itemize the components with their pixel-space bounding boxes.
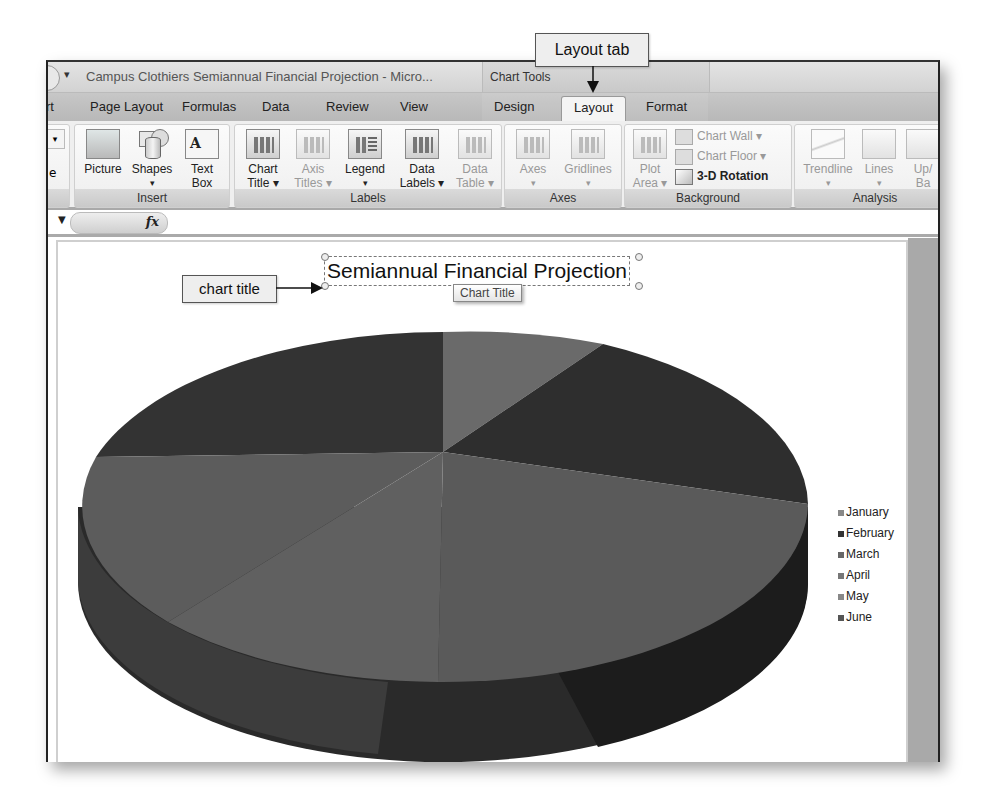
text-box-button[interactable]: A Text Box: [180, 129, 224, 190]
gridlines-button[interactable]: Gridlines ▾: [559, 129, 617, 190]
trendline-button[interactable]: Trendline ▾: [799, 129, 857, 190]
chart-title-button[interactable]: Chart Title ▾: [241, 129, 285, 190]
legend-item: March: [838, 544, 894, 565]
legend-item: April: [838, 565, 894, 586]
shapes-icon: [135, 129, 169, 159]
data-table-icon: [458, 129, 492, 159]
tab-view[interactable]: View: [400, 99, 428, 114]
background-group: Plot Area ▾ Chart Wall ▾ Chart Floor ▾ 3…: [624, 124, 792, 208]
ribbon: ▾ e Picture Shapes ▾ A Text: [48, 121, 938, 210]
tab-page-layout[interactable]: Page Layout: [90, 99, 163, 114]
insert-function-button[interactable]: fx: [70, 212, 168, 234]
analysis-group-label: Analysis: [795, 189, 940, 207]
legend-item: May: [838, 586, 894, 607]
legend-button[interactable]: Legend ▾: [339, 129, 391, 190]
legend-item: February: [838, 523, 894, 544]
pie-slice-june[interactable]: [96, 332, 443, 457]
legend-item: June: [838, 607, 894, 628]
chart-floor-button[interactable]: Chart Floor ▾: [675, 149, 766, 165]
formula-bar: ▼ fx: [48, 210, 938, 237]
tab-insert[interactable]: rt: [46, 99, 54, 114]
picture-button[interactable]: Picture: [80, 129, 126, 176]
quick-access-dropdown-icon[interactable]: ▾: [64, 68, 70, 81]
lines-button[interactable]: Lines ▾: [859, 129, 899, 190]
chart-floor-icon: [675, 149, 693, 165]
analysis-group: Trendline ▾ Lines ▾ Up/ Ba Analysis: [794, 124, 940, 208]
legend-swatch-icon: [838, 531, 844, 537]
lines-icon: [862, 129, 896, 159]
group-label: [46, 189, 69, 207]
tab-review[interactable]: Review: [326, 99, 369, 114]
layout-tab-callout: Layout tab: [535, 33, 649, 67]
legend-swatch-icon: [838, 573, 844, 579]
excel-window-screenshot: ▾ Campus Clothiers Semiannual Financial …: [46, 60, 940, 762]
fx-icon: fx: [146, 214, 159, 229]
trendline-icon: [811, 129, 845, 159]
insert-group-label: Insert: [75, 189, 229, 207]
name-box-dropdown-icon[interactable]: ▼: [58, 214, 66, 225]
tab-design[interactable]: Design: [494, 99, 534, 114]
up-down-bars-button[interactable]: Up/ Ba: [903, 129, 940, 190]
text-box-icon: A: [185, 129, 219, 159]
axes-icon: [516, 129, 550, 159]
legend-swatch-icon: [838, 615, 844, 621]
labels-group-label: Labels: [235, 189, 501, 207]
worksheet-background-strip: [908, 238, 938, 762]
3d-rotation-button[interactable]: 3-D Rotation: [675, 169, 768, 185]
axis-titles-icon: [296, 129, 330, 159]
chart-tools-label: Chart Tools: [490, 70, 550, 84]
chart-title-icon: [246, 129, 280, 159]
ribbon-tabs: rt Page Layout Formulas Data Review View…: [48, 93, 938, 121]
partial-label: e: [49, 166, 56, 180]
data-labels-button[interactable]: Data Labels ▾: [395, 129, 449, 190]
tab-format[interactable]: Format: [646, 99, 687, 114]
legend-swatch-icon: [838, 510, 844, 516]
legend-icon: [348, 129, 382, 159]
legend-swatch-icon: [838, 552, 844, 558]
partial-group: ▾ e: [46, 124, 70, 208]
shapes-button[interactable]: Shapes ▾: [128, 129, 176, 190]
3d-cube-icon: [675, 169, 693, 185]
legend-item: January: [838, 502, 894, 523]
window-title: Campus Clothiers Semiannual Financial Pr…: [86, 69, 433, 84]
plot-area-icon: [633, 129, 667, 159]
tab-formulas[interactable]: Formulas: [182, 99, 236, 114]
legend-swatch-icon: [838, 594, 844, 600]
plot-area-button[interactable]: Plot Area ▾: [629, 129, 671, 190]
chart-wall-icon: [675, 129, 693, 145]
chart-legend[interactable]: January February March April May June: [838, 502, 894, 628]
data-table-button[interactable]: Data Table ▾: [451, 129, 499, 190]
background-group-label: Background: [625, 189, 791, 207]
axes-group-label: Axes: [505, 189, 621, 207]
office-button[interactable]: [46, 65, 60, 91]
pie-chart[interactable]: [58, 242, 906, 762]
title-bar: ▾ Campus Clothiers Semiannual Financial …: [48, 62, 938, 93]
formula-input[interactable]: [172, 212, 938, 232]
axis-titles-button[interactable]: Axis Titles ▾: [289, 129, 337, 190]
chart-area[interactable]: Semiannual Financial Projection Chart Ti…: [56, 240, 908, 762]
data-labels-icon: [405, 129, 439, 159]
axes-button[interactable]: Axes ▾: [509, 129, 557, 190]
axes-group: Axes ▾ Gridlines ▾ Axes: [504, 124, 622, 208]
chart-title-callout: chart title: [182, 275, 277, 303]
up-down-bars-icon: [906, 129, 940, 159]
tab-data[interactable]: Data: [262, 99, 289, 114]
dropdown-button[interactable]: ▾: [46, 129, 65, 149]
picture-icon: [86, 129, 120, 159]
chart-wall-button[interactable]: Chart Wall ▾: [675, 129, 762, 145]
labels-group: Chart Title ▾ Axis Titles ▾ Legend ▾ Dat…: [234, 124, 502, 208]
gridlines-icon: [571, 129, 605, 159]
insert-group: Picture Shapes ▾ A Text Box Insert: [74, 124, 230, 208]
